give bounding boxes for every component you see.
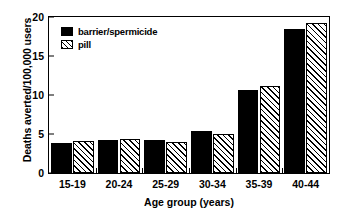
- y-tick-label: 20: [32, 11, 44, 23]
- bar-35-39-barrier-spermicide: [238, 90, 259, 173]
- x-tick-mark: [142, 168, 143, 173]
- y-tick-label: 15: [32, 50, 44, 62]
- y-tick-mark: [49, 17, 54, 18]
- x-tick-label-25-29: 25-29: [152, 178, 179, 190]
- x-tick-label-35-39: 35-39: [246, 178, 273, 190]
- legend-item-pill: pill: [61, 38, 157, 50]
- bar-40-44-barrier-spermicide: [284, 29, 305, 173]
- x-tick-mark: [282, 168, 283, 173]
- x-tick-mark: [236, 168, 237, 173]
- plot-area: 0510152015-1920-2425-2930-3435-3940-44 b…: [48, 16, 330, 174]
- legend-swatch-hatched-icon: [61, 40, 73, 49]
- bar-25-29-pill: [166, 142, 187, 173]
- x-tick-mark: [96, 168, 97, 173]
- x-tick-label-15-19: 15-19: [59, 178, 86, 190]
- x-tick-label-20-24: 20-24: [106, 178, 133, 190]
- legend-item-barrier-spermicide: barrier/spermicide: [61, 25, 157, 37]
- bar-20-24-barrier-spermicide: [98, 140, 119, 173]
- chart-legend: barrier/spermicide pill: [61, 25, 157, 51]
- y-axis-title: Deaths averted/100,000 users: [21, 5, 33, 175]
- y-tick-label: 0: [38, 167, 44, 179]
- y-tick-mark: [49, 134, 54, 135]
- legend-label-barrier-spermicide: barrier/spermicide: [78, 26, 157, 37]
- bar-25-29-barrier-spermicide: [144, 140, 165, 173]
- bar-20-24-pill: [120, 139, 141, 173]
- bar-30-34-pill: [213, 134, 234, 173]
- x-tick-label-40-44: 40-44: [292, 178, 319, 190]
- y-tick-mark: [49, 95, 54, 96]
- legend-label-pill: pill: [78, 39, 91, 50]
- x-tick-mark: [189, 168, 190, 173]
- y-tick-mark: [49, 56, 54, 57]
- x-tick-label-30-34: 30-34: [199, 178, 226, 190]
- legend-swatch-solid-icon: [61, 27, 73, 36]
- bar-chart-figure: Deaths averted/100,000 users 0510152015-…: [0, 0, 342, 217]
- bar-15-19-pill: [73, 141, 94, 173]
- bar-30-34-barrier-spermicide: [191, 131, 212, 173]
- y-tick-label: 10: [32, 89, 44, 101]
- x-axis-title: Age group (years): [48, 196, 330, 208]
- bar-35-39-pill: [260, 86, 281, 173]
- bar-15-19-barrier-spermicide: [51, 143, 72, 173]
- y-tick-label: 5: [38, 128, 44, 140]
- bar-40-44-pill: [306, 23, 327, 173]
